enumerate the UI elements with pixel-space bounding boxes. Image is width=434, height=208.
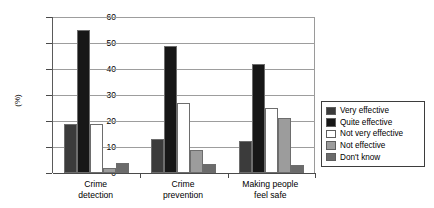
legend-swatch-icon [326,141,336,150]
bar [252,64,265,173]
legend-swatch-icon [326,153,336,162]
legend-swatch-icon [326,107,336,116]
x-label-line: prevention [139,190,226,201]
x-label-line: detection [52,190,139,201]
chart-legend: Very effectiveQuite effectiveNot very ef… [321,101,425,167]
x-label-line: Crime [139,179,226,190]
bar [151,139,164,173]
legend-label: Don't know [340,153,380,162]
bar [278,118,291,173]
bar [64,124,77,173]
bar-group-2 [140,17,227,173]
bar [265,108,278,173]
bar [77,30,90,173]
bar-group-1 [53,17,140,173]
bar [90,124,103,173]
bar [239,141,252,174]
legend-label: Not very effective [340,129,403,138]
legend-item-3[interactable]: Not very effective [326,128,420,140]
legend-item-4[interactable]: Not effective [326,140,420,152]
legend-label: Very effective [340,106,389,115]
bar [190,150,203,173]
category-separator [315,173,316,178]
category-separator [140,173,141,178]
bar [103,168,116,173]
x-label-line: Crime [52,179,139,190]
legend-label: Quite effective [340,118,392,127]
plot-area [52,17,315,173]
bar-group-3 [228,17,315,173]
legend-label: Not effective [340,141,385,150]
gridline-0 [53,173,315,174]
y-axis-title: (%) [13,90,22,112]
bar [164,46,177,173]
bar [203,164,216,173]
legend-swatch-icon [326,130,336,139]
x-label-2: Crimeprevention [139,179,226,200]
bar [116,163,129,173]
x-label-3: Making peoplefeel safe [227,179,314,200]
category-separator [228,173,229,178]
legend-swatch-icon [326,118,336,127]
bar [177,103,190,173]
y-tick-mark-0 [46,173,52,174]
legend-item-1[interactable]: Very effective [326,105,420,117]
legend-item-2[interactable]: Quite effective [326,117,420,129]
x-label-line: Making people [227,179,314,190]
x-label-line: feel safe [227,190,314,201]
bar [291,165,304,173]
x-label-1: Crimedetection [52,179,139,200]
grouped-bar-chart: (%) 0102030405060 CrimedetectionCrimepre… [0,0,434,208]
legend-item-5[interactable]: Don't know [326,151,420,163]
